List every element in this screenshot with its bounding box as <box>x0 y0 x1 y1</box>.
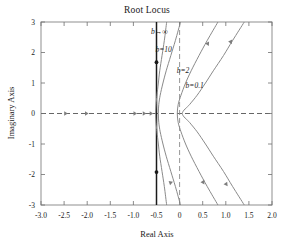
x-tick-label: -1.5 <box>104 211 116 220</box>
curve-annotation-0: b→∞ <box>151 27 168 36</box>
pole-marker <box>155 60 159 64</box>
x-tick-label: -2.5 <box>58 211 70 220</box>
x-tick-label: 0.5 <box>198 211 208 220</box>
y-tick-label: -3 <box>29 201 35 210</box>
y-axis-title: Imaginary Axis <box>6 87 16 140</box>
y-tick-label: 3 <box>31 18 35 27</box>
y-tick-label: -2 <box>29 170 35 179</box>
x-tick-label: 0 <box>178 211 182 220</box>
y-tick-label: 0 <box>31 109 35 118</box>
y-tick-label: 1 <box>31 79 35 88</box>
pole-marker <box>155 170 159 174</box>
x-tick-label: -3.0 <box>35 211 47 220</box>
x-tick-label: -1.0 <box>127 211 139 220</box>
root-locus-figure: Root Locus -3.0-2.5-2.0-1.5-1.0-0.500.51… <box>0 0 294 244</box>
x-tick-label: -0.5 <box>151 211 163 220</box>
x-tick-label: -2.0 <box>81 211 93 220</box>
x-tick-label: 2.0 <box>267 211 277 220</box>
curve-annotation-1: b=10 <box>156 45 173 54</box>
x-tick-labels: -3.0-2.5-2.0-1.5-1.0-0.500.51.01.52.0 <box>35 211 277 220</box>
curve-annotation-3: b=0.1 <box>186 81 204 90</box>
x-tick-label: 1.0 <box>221 211 231 220</box>
curve-annotation-2: b=2 <box>177 66 190 75</box>
y-tick-labels: -3-2-10123 <box>29 18 36 210</box>
x-axis-title: Real Axis <box>140 229 173 239</box>
y-tick-label: 2 <box>31 48 35 57</box>
x-tick-label: 1.5 <box>244 211 254 220</box>
plot-canvas: -3.0-2.5-2.0-1.5-1.0-0.500.51.01.52.0 -3… <box>0 0 294 244</box>
y-tick-label: -1 <box>29 140 35 149</box>
